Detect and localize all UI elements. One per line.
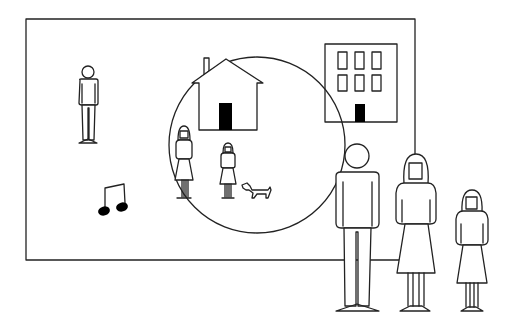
apartment-building-icon	[325, 44, 397, 122]
woman-foreground-icon	[396, 154, 436, 311]
lone-person-icon	[79, 66, 98, 143]
woman-in-circle-icon	[175, 126, 193, 198]
scene-svg	[0, 0, 513, 323]
dog-icon	[242, 183, 271, 198]
music-note-icon	[97, 184, 129, 217]
man-foreground-icon	[336, 144, 379, 311]
girl-foreground-icon	[456, 190, 488, 311]
house-icon	[192, 58, 263, 130]
girl-in-circle-icon	[220, 143, 236, 198]
illustration-canvas	[0, 0, 513, 323]
